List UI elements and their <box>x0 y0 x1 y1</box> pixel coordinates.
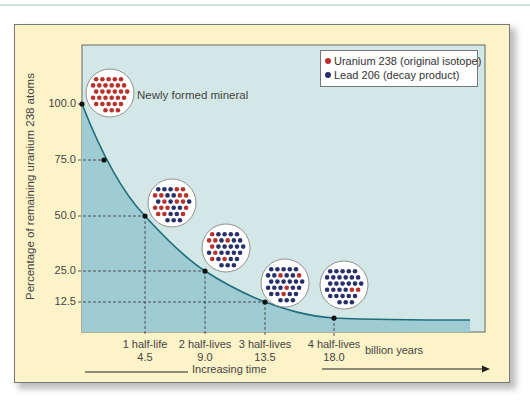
lead-dot-icon <box>325 72 331 78</box>
x-tick-3-half-lives: 3 half-lives 13.5 <box>230 338 300 364</box>
y-tick-12-5: 12.5 <box>38 295 76 307</box>
x-tick-4-half-lives: 4 half-lives 18.0 <box>299 338 369 364</box>
y-tick-50: 50.0 <box>38 209 76 221</box>
cropped-caption <box>390 396 530 406</box>
y-tick-75: 75.0 <box>38 153 76 165</box>
arrow-head-icon <box>482 366 490 373</box>
newly-formed-label: Newly formed mineral <box>137 89 248 101</box>
legend-item-lead: Lead 206 (decay product) <box>325 68 473 82</box>
legend: Uranium 238 (original isotope) Lead 206 … <box>320 50 478 87</box>
legend-item-uranium: Uranium 238 (original isotope) <box>325 54 473 68</box>
y-axis-label: Percentage of remaining uranium 238 atom… <box>24 73 36 300</box>
y-tick-100: 100.0 <box>38 97 76 109</box>
y-tick-25: 25.0 <box>38 264 76 276</box>
x-unit-label: billion years <box>365 344 423 356</box>
time-arrow-label: Increasing time <box>192 363 267 375</box>
uranium-dot-icon <box>325 58 331 64</box>
